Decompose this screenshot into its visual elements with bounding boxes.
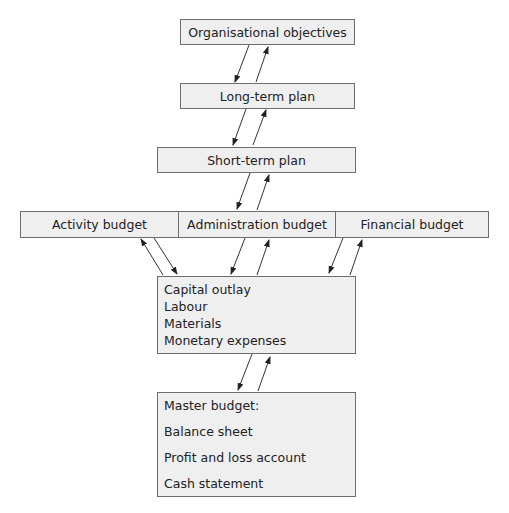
component-item: Monetary expenses: [164, 332, 349, 349]
node-long-term-plan: Long-term plan: [180, 83, 355, 109]
master-item: Balance sheet: [164, 423, 349, 449]
master-item: Profit and loss account: [164, 449, 349, 475]
component-item: Labour: [164, 298, 349, 315]
node-label: Long-term plan: [220, 89, 315, 104]
node-master-budget: Master budget: Balance sheet Profit and …: [157, 392, 356, 497]
master-item: Cash statement: [164, 475, 349, 501]
node-label: Financial budget: [360, 217, 463, 232]
arrow-down: [235, 45, 249, 82]
node-label: Short-term plan: [207, 153, 306, 168]
node-label: Organisational objectives: [188, 25, 347, 40]
node-activity-budget: Activity budget: [21, 212, 178, 237]
arrow-up: [256, 47, 268, 82]
node-budget-components: Capital outlay Labour Materials Monetary…: [157, 276, 356, 354]
component-item: Materials: [164, 315, 349, 332]
node-label: Activity budget: [52, 217, 147, 232]
master-title: Master budget:: [164, 397, 349, 423]
node-financial-budget: Financial budget: [335, 212, 488, 237]
node-organisational-objectives: Organisational objectives: [180, 19, 355, 45]
node-administration-budget: Administration budget: [178, 212, 335, 237]
node-label: Administration budget: [187, 217, 327, 232]
component-item: Capital outlay: [164, 281, 349, 298]
node-short-term-plan: Short-term plan: [157, 147, 356, 173]
budgets-row: Activity budget Administration budget Fi…: [20, 211, 489, 238]
